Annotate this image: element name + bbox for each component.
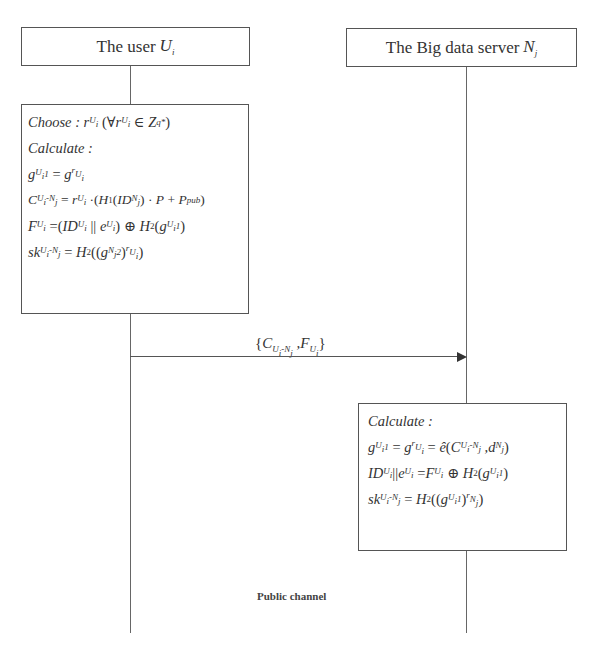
participant-server-label: The Big data server [386,38,520,58]
server-computation-block: Calculate : gUi1 = grUi = ê(CUi-Nj ,dNj)… [358,403,567,551]
equation-c: CUi-Nj = rUi ·(H1(IDNj) · P + Ppub) [28,187,242,213]
participant-server-symbol: Nj [523,37,537,58]
equation-g1: gUi1 = grUi [28,161,242,187]
equation-sk: skUi-Nj = H2((gNj2)rUi) [28,239,242,265]
user-lifeline-top [130,66,131,104]
participant-user: The user Ui [21,27,250,66]
arrow-head-icon [457,352,467,362]
user-lifeline [130,313,131,633]
participant-server: The Big data server Nj [346,28,577,67]
equation-f: FUi =(IDUi || eUi) ⊕ H2(gUi1) [28,213,242,239]
calculate-label: Calculate : [28,135,242,161]
participant-user-symbol: Ui [160,36,175,57]
calculate-label: Calculate : [368,408,560,434]
message-label: {CUi-Nj ,FUi} [255,335,326,358]
choose-line: Choose : rUi (∀rUi ∈ Zq*) [28,109,242,135]
equation-recover-id: IDUi||eUi =FUi ⊕ H2(gUi1) [368,460,560,486]
message-arrow [130,356,458,357]
user-computation-block: Choose : rUi (∀rUi ∈ Zq*) Calculate : gU… [21,104,249,314]
equation-pairing: gUi1 = grUi = ê(CUi-Nj ,dNj) [368,434,560,460]
participant-user-label: The user [97,37,156,57]
server-lifeline [466,550,467,633]
channel-label: Public channel [257,590,326,602]
equation-sk-server: skUi-Nj = H2((gUi1)rNj) [368,486,560,512]
